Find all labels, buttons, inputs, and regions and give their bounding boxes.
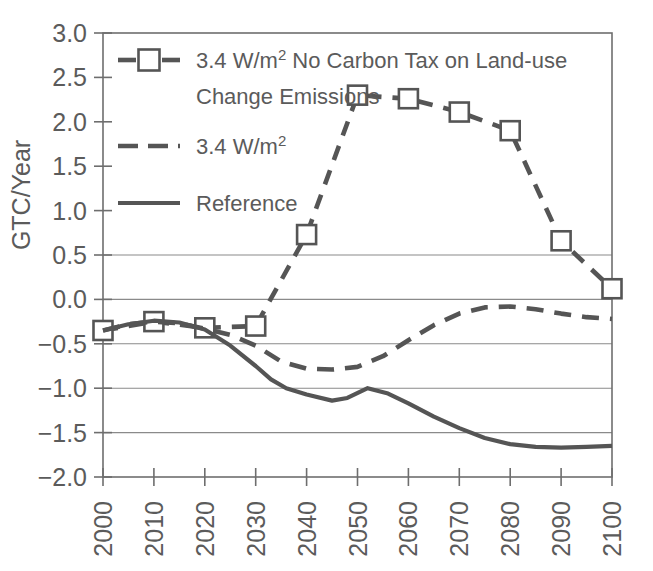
series-line-dashed-square — [103, 95, 612, 330]
series-line-solid — [103, 321, 612, 448]
series-marker-square — [246, 317, 265, 336]
series-marker-square — [501, 121, 520, 140]
series-marker-square — [297, 225, 316, 244]
x-tick-label: 2030 — [242, 501, 270, 557]
x-tick-label: 2090 — [547, 501, 575, 557]
series-marker-square — [399, 89, 418, 108]
emissions-line-chart: 3.02.52.01.51.00.50.0−0.5−1.0−1.5−2.0 20… — [0, 0, 653, 571]
legend-label-no-carbon-tax-line2: Change Emissions — [196, 84, 379, 109]
legend-label-superscript: 2 — [278, 46, 286, 63]
x-tick-label: 2070 — [445, 501, 473, 557]
y-tick-label: 3.0 — [52, 19, 87, 47]
data-series-group — [94, 86, 622, 448]
legend-label-text-rest: No Carbon Tax on Land-use — [286, 48, 567, 73]
y-tick-label: 0.5 — [52, 241, 87, 269]
x-tick-label: 2040 — [293, 501, 321, 557]
gridlines-group — [103, 255, 612, 433]
legend-label-text: Reference — [196, 191, 298, 216]
y-tick-label: 0.0 — [52, 285, 87, 313]
y-axis-tick-labels: 3.02.52.01.51.00.50.0−0.5−1.0−1.5−2.0 — [38, 19, 87, 491]
x-tick-label: 2010 — [140, 501, 168, 557]
y-axis-title: GTC/Year — [7, 140, 35, 250]
series-marker-square — [603, 279, 622, 298]
y-tick-label: −1.0 — [38, 374, 87, 402]
legend-label-text: 3.4 W/m — [196, 48, 278, 73]
legend-label-no-carbon-tax: 3.4 W/m2 No Carbon Tax on Land-use — [196, 46, 567, 73]
x-tick-label: 2000 — [89, 501, 117, 557]
series-marker-square — [450, 103, 469, 122]
legend-label-text: 3.4 W/m — [196, 134, 278, 159]
y-tick-label: 2.0 — [52, 108, 87, 136]
chart-canvas: 3.02.52.01.51.00.50.0−0.5−1.0−1.5−2.0 20… — [0, 0, 653, 571]
y-tick-label: −2.0 — [38, 463, 87, 491]
series-marker-square — [552, 231, 571, 250]
x-tick-label: 2060 — [394, 501, 422, 557]
y-axis-title-text: GTC/Year — [7, 140, 35, 250]
x-tick-label: 2050 — [344, 501, 372, 557]
x-tick-label: 2100 — [598, 501, 626, 557]
legend-label-3p4-wm2: 3.4 W/m2 — [196, 132, 286, 159]
legend-swatch-square — [139, 50, 160, 71]
x-tick-label: 2080 — [496, 501, 524, 557]
legend-label-reference: Reference — [196, 191, 298, 216]
series-line-dashed — [103, 307, 612, 370]
y-tick-label: −1.5 — [38, 419, 87, 447]
x-axis-tick-labels: 2000201020202030204020502060207020802090… — [89, 501, 626, 557]
y-tick-label: 1.5 — [52, 152, 87, 180]
x-tick-label: 2020 — [191, 501, 219, 557]
legend-label-superscript: 2 — [278, 132, 286, 149]
y-tick-label: 1.0 — [52, 197, 87, 225]
y-tick-label: −0.5 — [38, 330, 87, 358]
y-tick-label: 2.5 — [52, 63, 87, 91]
